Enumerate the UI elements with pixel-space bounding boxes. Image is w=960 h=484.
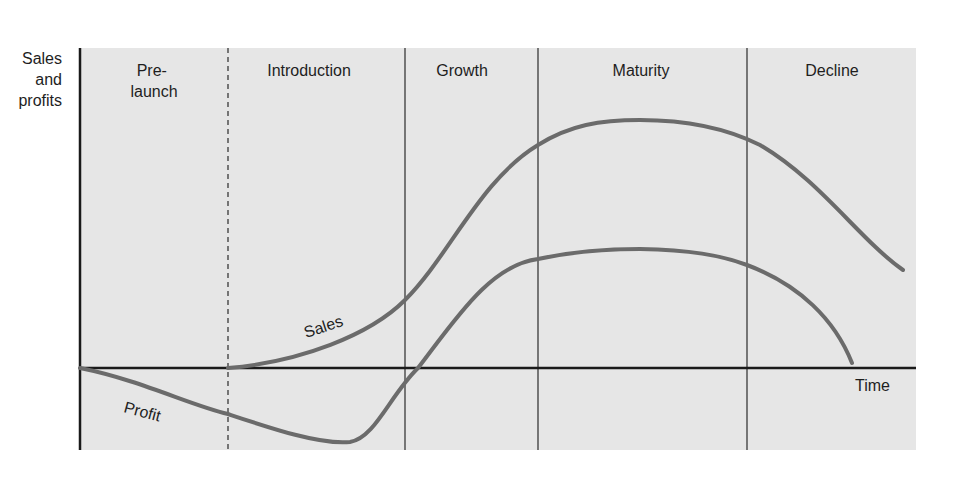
stage-label-decline: Decline — [805, 62, 858, 79]
product-life-cycle-chart: Pre- launch Introduction Growth Maturity… — [0, 0, 960, 484]
plot-panel — [80, 48, 916, 450]
x-axis-label: Time — [855, 377, 890, 394]
stage-label-maturity: Maturity — [613, 62, 670, 79]
stage-label-growth: Growth — [436, 62, 488, 79]
stage-label-introduction: Introduction — [267, 62, 351, 79]
